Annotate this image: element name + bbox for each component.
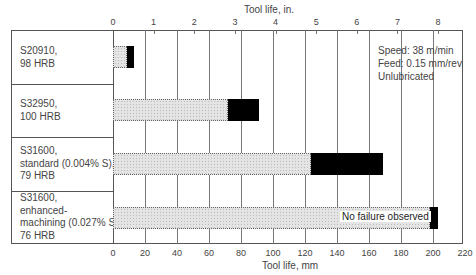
bar-black [311, 153, 383, 175]
conditions-note: Speed: 38 m/min Feed: 0.15 mm/rev Unlubr… [378, 44, 462, 83]
inch-tick-label: 3 [232, 17, 237, 27]
bar-black [127, 46, 133, 68]
inch-tick-label: 6 [354, 17, 359, 27]
mm-tick-label: 40 [172, 248, 182, 258]
row-divider [11, 137, 114, 138]
inch-tick-label: 2 [192, 17, 197, 27]
inch-tick-label: 5 [314, 17, 319, 27]
mm-tick-label: 0 [110, 248, 115, 258]
row-label: S31600, standard (0.004% S), 79 HRB [20, 145, 115, 183]
bar-black [228, 99, 258, 121]
row-label: S31600, enhanced- machining (0.027% S), … [20, 192, 121, 242]
mm-tick-label: 120 [297, 248, 312, 258]
inch-tick-label: 0 [110, 17, 115, 27]
inch-tick-label: 7 [395, 17, 400, 27]
bar-hatched [113, 99, 228, 121]
row-label: S32950, 100 HRB [20, 98, 61, 123]
bar-hatched [113, 153, 311, 175]
mm-tick-label: 100 [265, 248, 280, 258]
inch-tick-label: 4 [273, 17, 278, 27]
no-failure-annotation: No failure observed [340, 211, 431, 222]
mm-tick-label: 160 [361, 248, 376, 258]
top-axis-title: Tool life, in. [244, 4, 294, 15]
mm-tick-label: 80 [236, 248, 246, 258]
bottom-axis-title: Tool life, mm [262, 260, 318, 271]
mm-tick-label: 60 [204, 248, 214, 258]
bar-black [430, 207, 438, 229]
mm-tick-label: 140 [329, 248, 344, 258]
feed-note: Feed: 0.15 mm/rev [378, 57, 462, 70]
inch-tick-label: 1 [151, 17, 156, 27]
speed-note: Speed: 38 m/min [378, 44, 462, 57]
mm-tick-label: 200 [425, 248, 440, 258]
bar-hatched [113, 46, 127, 68]
inch-tick-label: 8 [436, 17, 441, 27]
row-divider [11, 84, 114, 85]
mm-tick-label: 220 [457, 248, 472, 258]
lubrication-note: Unlubricated [378, 70, 462, 83]
mm-tick-label: 180 [393, 248, 408, 258]
mm-tick-label: 20 [140, 248, 150, 258]
row-label: S20910, 98 HRB [20, 45, 57, 70]
